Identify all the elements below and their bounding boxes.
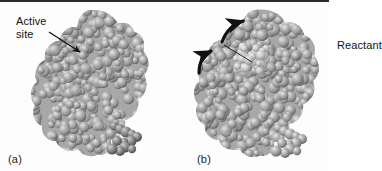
reactant-label: Reactant bbox=[337, 39, 382, 52]
panel-caption-a: (a) bbox=[8, 153, 22, 165]
enzyme-substrate-complex-space-filling-model-b bbox=[190, 8, 329, 158]
panel-caption-b: (b) bbox=[197, 153, 211, 165]
active-site-label: Active site bbox=[16, 15, 47, 40]
panel-b: Reactant (b) bbox=[165, 0, 329, 171]
enzyme-space-filling-model-a bbox=[28, 8, 164, 158]
panel-a: Active site (a) bbox=[0, 0, 164, 171]
